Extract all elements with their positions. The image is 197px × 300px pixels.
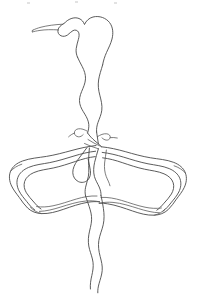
line-drawing <box>0 0 197 300</box>
drawing-canvas: Black ink contour drawing on white backg… <box>0 0 197 300</box>
